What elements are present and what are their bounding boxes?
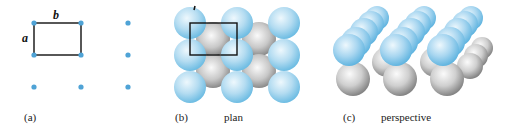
panel-c-label: (c) xyxy=(343,111,355,123)
unit-cell-rect xyxy=(34,23,81,55)
panel-c-title: perspective xyxy=(381,111,431,123)
panel-b-title: plan xyxy=(224,111,243,123)
panel-a-lattice: b a (a) xyxy=(0,0,160,130)
panel-a-label: (a) xyxy=(24,111,36,123)
panel-b-label: (b) xyxy=(175,111,188,123)
tick-mark xyxy=(194,6,195,10)
panel-c-perspective: (c) perspective xyxy=(320,0,508,130)
lattice-param-a: a xyxy=(22,31,28,46)
lattice-param-b: b xyxy=(53,8,59,23)
panel-b-plan: (b) plan xyxy=(160,0,320,130)
blue-sphere-rows xyxy=(333,6,483,66)
